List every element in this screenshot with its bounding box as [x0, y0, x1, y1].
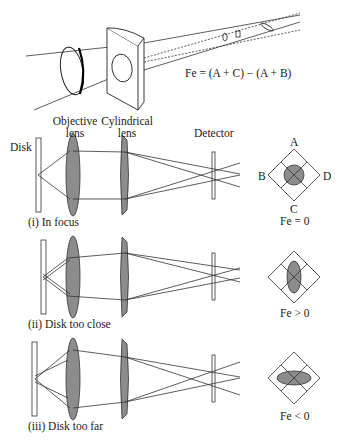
focus-error-formula: Fe = (A + C) − (A + B) [185, 67, 291, 79]
detector [212, 152, 215, 199]
caption-in-focus: (i) In focus [28, 216, 79, 228]
quadrant-label-c: C [290, 203, 298, 215]
objective-lens [66, 236, 80, 318]
perspective-view [26, 13, 300, 110]
panel-in-focus [36, 134, 240, 216]
objective-lens [66, 134, 80, 216]
detector [212, 355, 215, 402]
result-too-far: Fe < 0 [280, 410, 310, 422]
cylindrical-lens [121, 339, 129, 419]
result-too-close: Fe > 0 [280, 307, 310, 319]
quadrant-label-b: B [258, 170, 266, 182]
panel-too-far [32, 338, 240, 420]
quadrant-label-a: A [290, 136, 298, 148]
quadrant-detector-too-close [268, 251, 320, 303]
caption-too-close: (ii) Disk too close [28, 318, 111, 330]
disk [32, 342, 37, 416]
quadrant-label-d: D [323, 170, 331, 182]
cylindrical-lens-label: Cylindrical lens [97, 115, 157, 139]
cylindrical-lens [121, 135, 129, 215]
cylindrical-lens [121, 237, 129, 317]
detector [212, 253, 215, 300]
objective-lens-label: Objective lens [50, 115, 100, 139]
panel-too-close [41, 236, 240, 318]
detector-label: Detector [194, 127, 234, 139]
quadrant-detector-too-far [268, 352, 320, 404]
caption-too-far: (iii) Disk too far [28, 420, 103, 432]
result-in-focus: Fe = 0 [280, 215, 310, 227]
quadrant-detector-in-focus [268, 149, 320, 201]
disk-label: Disk [10, 141, 32, 153]
